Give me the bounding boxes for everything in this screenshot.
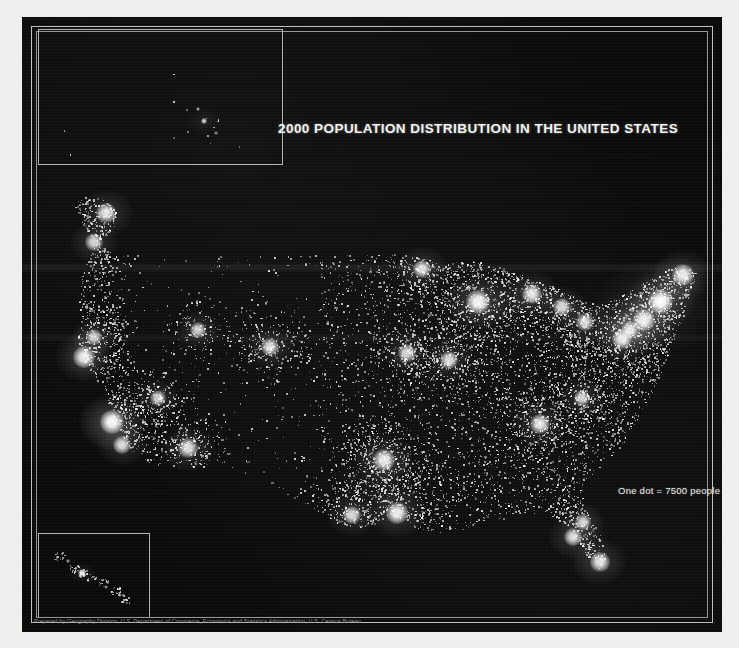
hawaii-inset	[38, 533, 150, 617]
map-sheet: 2000 POPULATION DISTRIBUTION IN THE UNIT…	[22, 17, 722, 632]
map-title: 2000 POPULATION DISTRIBUTION IN THE UNIT…	[278, 121, 698, 136]
map-credit: Prepared by Geography Division, U.S. Dep…	[34, 618, 363, 624]
map-page: 2000 POPULATION DISTRIBUTION IN THE UNIT…	[0, 0, 739, 648]
alaska-inset	[38, 29, 283, 165]
map-legend: One dot = 7500 people	[618, 485, 720, 496]
